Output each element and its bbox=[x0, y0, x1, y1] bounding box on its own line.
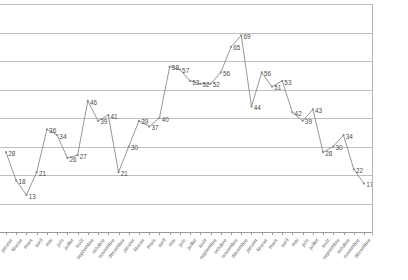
x-axis-tick bbox=[313, 232, 314, 235]
data-point bbox=[148, 125, 150, 127]
x-axis-tick bbox=[231, 232, 232, 235]
x-axis-tick bbox=[333, 232, 334, 235]
data-point-label: 13 bbox=[29, 193, 37, 200]
data-point-label: 58 bbox=[172, 64, 180, 71]
x-axis-tick bbox=[67, 232, 68, 235]
x-axis-tick bbox=[37, 232, 38, 235]
x-axis-tick bbox=[26, 232, 27, 235]
data-point bbox=[312, 108, 314, 110]
data-point bbox=[117, 171, 119, 173]
x-axis-label: juillet bbox=[185, 237, 197, 250]
data-point bbox=[56, 134, 58, 136]
data-point-label: 40 bbox=[162, 116, 170, 123]
x-axis-label: mars bbox=[144, 237, 156, 250]
data-point-label: 56 bbox=[264, 70, 272, 77]
x-axis-tick bbox=[190, 232, 191, 235]
data-point-label: 18 bbox=[18, 178, 26, 185]
data-point-label: 42 bbox=[295, 110, 303, 117]
data-point-label: 21 bbox=[39, 170, 47, 177]
data-point-label: 27 bbox=[80, 153, 88, 160]
data-point bbox=[97, 120, 99, 122]
x-axis-tick bbox=[139, 232, 140, 235]
data-point-label: 53 bbox=[192, 79, 200, 86]
series-group: 2818132136342627463941213039374058575352… bbox=[0, 4, 372, 232]
data-point bbox=[107, 114, 109, 116]
data-point bbox=[128, 145, 130, 147]
x-axis-tick bbox=[78, 232, 79, 235]
data-point-label: 37 bbox=[151, 124, 159, 131]
data-point-label: 39 bbox=[305, 118, 313, 125]
data-point-label: 52 bbox=[203, 81, 211, 88]
x-axis-tick bbox=[149, 232, 150, 235]
data-point bbox=[36, 171, 38, 173]
x-axis-label: mars bbox=[267, 237, 279, 250]
data-point-label: 28 bbox=[325, 150, 333, 157]
x-axis-label: avril bbox=[279, 237, 290, 248]
data-point bbox=[46, 128, 48, 130]
data-point bbox=[261, 71, 263, 73]
data-point bbox=[271, 86, 273, 88]
data-point bbox=[281, 80, 283, 82]
data-point bbox=[240, 34, 242, 36]
data-point bbox=[179, 68, 181, 70]
data-point-label: 34 bbox=[346, 133, 354, 140]
data-point bbox=[209, 83, 211, 85]
data-point-label: 39 bbox=[141, 118, 149, 125]
data-point bbox=[302, 120, 304, 122]
x-axis-tick bbox=[47, 232, 48, 235]
x-axis-tick bbox=[16, 232, 17, 235]
data-point-label: 36 bbox=[49, 127, 57, 134]
x-axis-tick bbox=[221, 232, 222, 235]
x-axis-tick bbox=[292, 232, 293, 235]
plot-area: 2818132136342627463941213039374058575352… bbox=[0, 4, 372, 232]
data-point bbox=[342, 134, 344, 136]
data-point-label: 22 bbox=[356, 167, 364, 174]
line-chart: 2818132136342627463941213039374058575352… bbox=[0, 0, 408, 280]
x-axis-tick bbox=[159, 232, 160, 235]
data-point bbox=[220, 71, 222, 73]
x-axis-label: juillet bbox=[62, 237, 74, 250]
x-axis: janvierfévriermarsavrilmaijuinjuilletaoû… bbox=[0, 232, 408, 280]
x-axis-tick bbox=[98, 232, 99, 235]
data-point bbox=[25, 194, 27, 196]
data-point bbox=[158, 117, 160, 119]
x-axis-tick bbox=[282, 232, 283, 235]
data-point-label: 43 bbox=[315, 107, 323, 114]
data-point bbox=[138, 120, 140, 122]
data-point bbox=[5, 151, 7, 153]
data-point bbox=[363, 182, 365, 184]
x-axis-label: avril bbox=[33, 237, 44, 248]
data-point-label: 30 bbox=[131, 144, 139, 151]
data-point bbox=[199, 83, 201, 85]
data-point bbox=[332, 145, 334, 147]
data-point-label: 39 bbox=[100, 118, 108, 125]
x-axis-tick bbox=[129, 232, 130, 235]
plot-right-border bbox=[372, 4, 373, 236]
x-axis-label: mai bbox=[167, 237, 177, 247]
x-axis-tick bbox=[364, 232, 365, 235]
x-axis-label: juillet bbox=[308, 237, 320, 250]
data-point bbox=[15, 180, 17, 182]
data-point-label: 52 bbox=[213, 81, 221, 88]
x-axis-label: mai bbox=[290, 237, 300, 247]
data-point bbox=[87, 100, 89, 102]
x-axis-tick bbox=[323, 232, 324, 235]
x-axis-tick bbox=[6, 232, 7, 235]
data-point bbox=[250, 106, 252, 108]
data-point bbox=[230, 46, 232, 48]
data-point bbox=[77, 154, 79, 156]
data-point-label: 69 bbox=[243, 33, 251, 40]
x-axis-tick bbox=[108, 232, 109, 235]
x-axis-tick bbox=[200, 232, 201, 235]
data-point-label: 65 bbox=[233, 44, 241, 51]
data-point-label: 41 bbox=[110, 113, 118, 120]
data-point-label: 51 bbox=[274, 84, 282, 91]
data-point bbox=[66, 157, 68, 159]
x-axis-tick bbox=[354, 232, 355, 235]
data-point-label: 26 bbox=[70, 156, 78, 163]
x-axis-label: mars bbox=[22, 237, 34, 250]
x-axis-tick bbox=[262, 232, 263, 235]
data-point bbox=[353, 168, 355, 170]
x-axis-tick bbox=[211, 232, 212, 235]
data-point-label: 46 bbox=[90, 99, 98, 106]
